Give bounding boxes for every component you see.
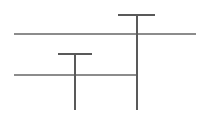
- diagram-canvas: [0, 0, 205, 115]
- canvas-background: [0, 0, 205, 115]
- line-figure: [0, 0, 205, 115]
